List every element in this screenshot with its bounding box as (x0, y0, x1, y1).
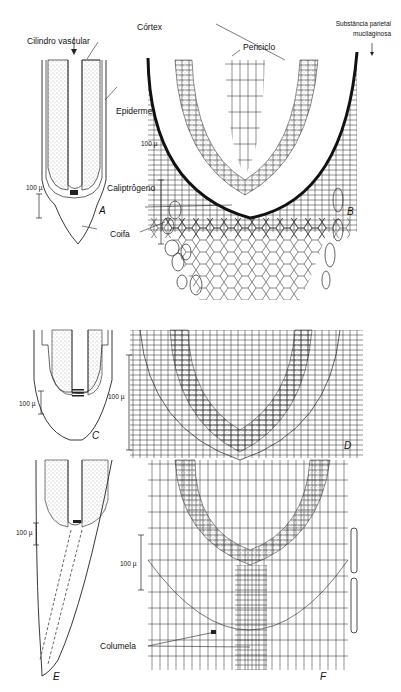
panel-label-b: B (347, 207, 354, 217)
panel-label-a: A (99, 206, 106, 216)
label-caliptrogeno: Caliptrôgeno (107, 184, 155, 193)
panel-label-c: C (92, 431, 99, 441)
panel-label-e: E (53, 672, 60, 682)
scale-bar-a: 100 µ (26, 185, 42, 192)
label-cilindro-vascular: Cilindro vascular (27, 37, 90, 46)
panel-b-drawing (140, 24, 374, 300)
panel-c-drawing (34, 330, 116, 444)
label-mucilaginosa: mucilaginosa (310, 31, 391, 38)
scale-bar-c: 100 µ (19, 401, 35, 408)
scale-bar-e: 100 µ (16, 530, 32, 537)
panel-f-drawing (138, 460, 357, 670)
scale-bar-f: 100 µ (120, 561, 136, 568)
scale-bar-d: 100 µ (108, 394, 124, 401)
root-apex-figure (0, 0, 401, 692)
panel-label-d: D (344, 441, 351, 451)
label-coifa: Coifa (110, 230, 130, 239)
scale-bar-b: 100 µ (141, 141, 157, 148)
label-epiderme: Epiderme (116, 107, 152, 116)
label-periciclo: Periciclo (243, 43, 275, 52)
panel-label-f: F (320, 672, 326, 682)
label-substancia-parietal: Substância parietal (310, 21, 391, 28)
label-cortex: Córtex (137, 23, 162, 32)
panel-d-drawing (126, 330, 363, 460)
label-columela: Columela (100, 642, 136, 651)
